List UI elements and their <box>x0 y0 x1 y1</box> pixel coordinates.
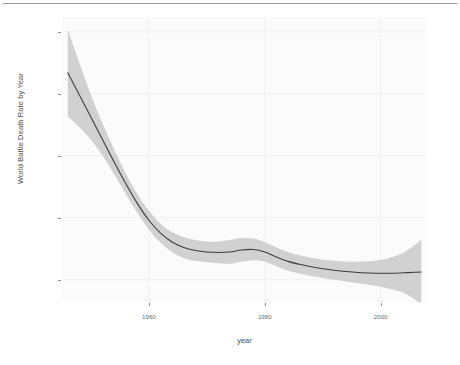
x-tick-mark <box>381 303 382 306</box>
chart-figure: World Battle Death Rate by Year year 0.0… <box>0 0 460 365</box>
x-tick-mark <box>265 303 266 306</box>
y-tick-mark <box>58 280 61 281</box>
y-tick-mark <box>58 156 61 157</box>
y-tick-mark <box>58 94 61 95</box>
x-tick-mark <box>149 303 150 306</box>
x-tick-label: 1980 <box>243 313 287 320</box>
axis-layer: World Battle Death Rate by Year year 0.0… <box>0 0 460 365</box>
x-tick-label: 1960 <box>127 313 171 320</box>
y-tick-mark <box>58 218 61 219</box>
y-tick-mark <box>58 32 61 33</box>
x-axis-title: year <box>62 336 427 345</box>
y-axis-title: World Battle Death Rate by Year <box>16 59 25 199</box>
x-tick-label: 2000 <box>359 313 403 320</box>
